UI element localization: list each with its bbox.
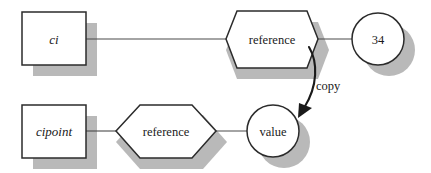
reference-top-label: reference bbox=[249, 33, 296, 47]
node-value[interactable]: value bbox=[247, 105, 299, 157]
node-value-34[interactable]: 34 bbox=[352, 13, 404, 65]
diagram-svg: ci reference 34 cipoint reference bbox=[0, 0, 431, 173]
node-reference-top[interactable]: reference bbox=[226, 11, 318, 68]
reference-bottom-label: reference bbox=[143, 125, 190, 139]
value-label: value bbox=[259, 125, 287, 139]
node-cipoint[interactable]: cipoint bbox=[22, 105, 86, 158]
copy-arrow-label: copy bbox=[316, 79, 341, 93]
node-ci[interactable]: ci bbox=[22, 12, 86, 65]
cipoint-label: cipoint bbox=[36, 124, 72, 139]
value-34-label: 34 bbox=[372, 33, 385, 47]
diagram-canvas: ci reference 34 cipoint reference bbox=[0, 0, 431, 173]
ci-label: ci bbox=[49, 32, 59, 47]
